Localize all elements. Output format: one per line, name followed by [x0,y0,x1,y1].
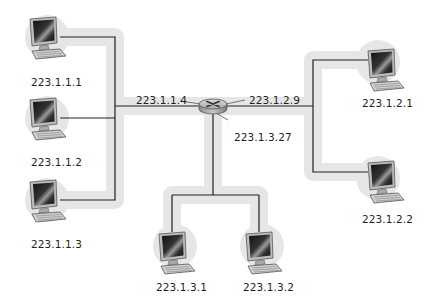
router-interface-label-bottom: 223.1.3.27 [234,131,292,143]
host-label: 223.1.1.1 [31,76,82,88]
host-label: 223.1.2.1 [362,97,413,109]
router-interface-label-right: 223.1.2.9 [249,94,300,106]
network-diagram [0,0,443,306]
host-label: 223.1.3.2 [243,281,294,293]
host-label: 223.1.2.2 [362,213,413,225]
router-interface-label-left: 223.1.1.4 [136,94,187,106]
link-subnet-2 [226,60,368,172]
router-icon [199,99,227,114]
host-label: 223.1.1.3 [31,238,82,250]
link-subnet-1 [60,37,200,200]
host-label: 223.1.1.2 [31,156,82,168]
host-label: 223.1.3.1 [156,281,207,293]
